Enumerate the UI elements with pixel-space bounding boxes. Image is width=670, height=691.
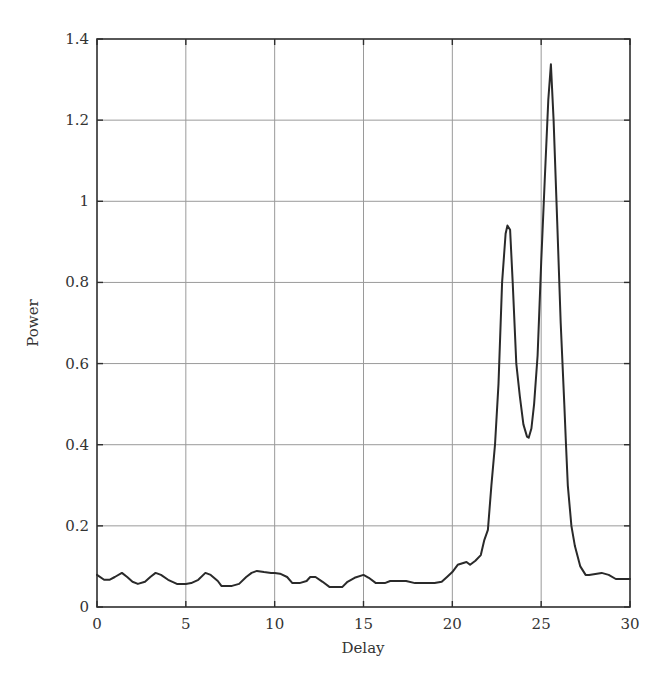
y-tick-label: 1.2 — [65, 111, 89, 129]
y-tick-label: 1 — [79, 192, 89, 210]
grid-lines — [97, 39, 630, 607]
x-tick-label: 25 — [532, 615, 551, 633]
x-tick-label: 10 — [265, 615, 284, 633]
y-tick-label: 0.4 — [65, 436, 89, 454]
x-axis-title: Delay — [341, 639, 385, 657]
y-tick-labels: 00.20.40.60.811.21.4 — [65, 30, 89, 616]
y-tick-label: 1.4 — [65, 30, 89, 48]
x-tick-label: 20 — [443, 615, 462, 633]
y-tick-label: 0.2 — [65, 517, 89, 535]
y-tick-label: 0 — [79, 598, 89, 616]
x-tick-label: 5 — [181, 615, 191, 633]
x-tick-label: 15 — [354, 615, 373, 633]
x-tick-label: 0 — [92, 615, 102, 633]
y-tick-label: 0.8 — [65, 273, 89, 291]
chart: 051015202530 00.20.40.60.811.21.4 Delay … — [0, 0, 670, 691]
y-axis-title: Power — [24, 298, 42, 346]
x-tick-labels: 051015202530 — [92, 615, 639, 633]
y-tick-label: 0.6 — [65, 355, 89, 373]
x-tick-label: 30 — [620, 615, 639, 633]
